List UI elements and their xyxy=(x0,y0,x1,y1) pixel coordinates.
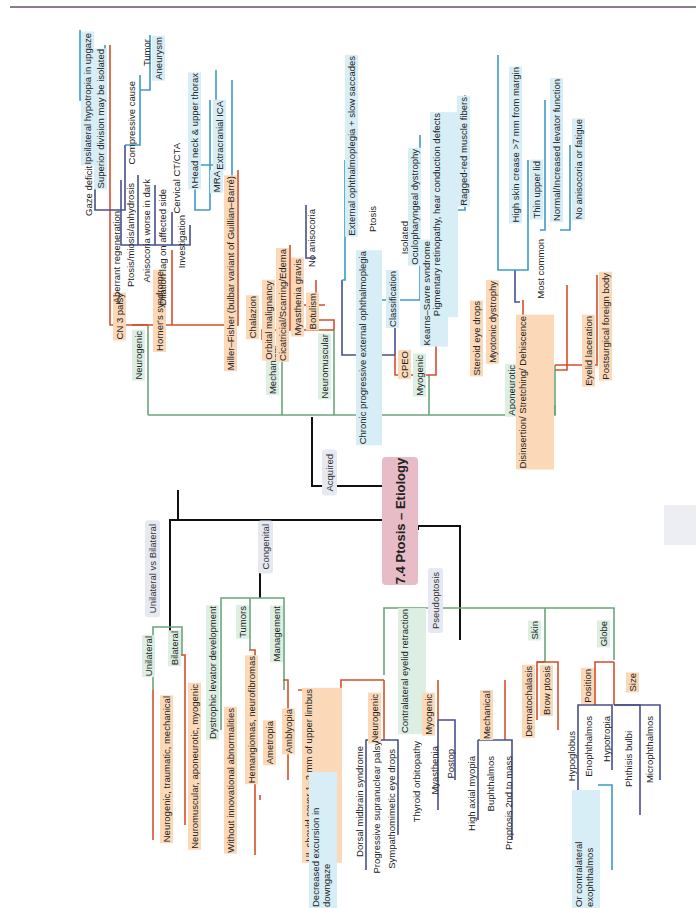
leaf-no-anisocoria: No anisocoria xyxy=(305,208,318,268)
leaf-high-axial-myopia: High axial myopia xyxy=(465,755,478,832)
node-unilateral: Unilateral xyxy=(142,635,155,677)
node-most-common: Most common xyxy=(534,238,547,300)
branch-unilateral-vs-bilateral: Unilateral vs Bilateral xyxy=(145,520,160,617)
branch-pseudoptosis: Pseudoptosis xyxy=(428,568,443,633)
node-bilateral: Bilateral xyxy=(168,630,181,666)
leaf-cpeo-full: Chronic progressive external ophthalmopl… xyxy=(356,250,382,445)
leaf-unilateral-causes: Neurogenic, traumatic, mechanical xyxy=(160,695,173,843)
leaf-cervical-ct: Cervical CT/CTA xyxy=(170,142,183,215)
leaf-cicatricial: Cicatricial/Scarring/Edema xyxy=(276,248,289,362)
node-aberrant-regeneration: Aberrant regeneration xyxy=(110,210,123,304)
leaf-superior-division: Superior division may be isolated xyxy=(94,48,107,189)
node-globe: Globe xyxy=(597,620,610,647)
leaf-or-contralateral-exophthalmos: Or contralateral exophthalmos xyxy=(572,790,600,908)
leaf-miller-fisher: Miller–Fisher (bulbar variant of Guillia… xyxy=(224,175,237,371)
leaf-ametropia: Ametropia xyxy=(263,720,276,765)
leaf-proptosis-mass: Proptosis 2nd to mass xyxy=(502,755,515,851)
leaf-hypoglobus: Hypoglobus xyxy=(565,730,578,782)
leaf-brow-ptosis: Brow ptosis xyxy=(540,665,553,716)
leaf-sympathomimetic: Sympathomimetic eye drops xyxy=(385,748,398,870)
leaf-hemangiomas: Hemangiomas, neurofibromas xyxy=(245,655,258,784)
leaf-thyroid-orbitopathy: Thyroid orbitopathy xyxy=(410,740,423,823)
node-pseudo-myogenic: Myogenic xyxy=(422,693,435,736)
leaf-buphthalmos: Buphthalmos xyxy=(484,755,497,812)
leaf-high-skin-crease: High skin crease >7 mm from margin xyxy=(509,66,522,223)
node-amblyopia: Amblyopia xyxy=(282,708,295,754)
leaf-without-innovational: Without innovational abnormalities xyxy=(224,707,237,854)
leaf-botulism: Botulism xyxy=(306,292,319,330)
node-ptosis: Ptosis xyxy=(366,205,379,233)
node-neuromuscular: Neuromuscular xyxy=(318,333,331,399)
node-dystrophic-levator: Dystrophic levator development xyxy=(206,605,219,740)
leaf-thin-upper-lid: Thin upper lid xyxy=(530,160,543,220)
leaf-orbital-malignancy: Orbital malignancy xyxy=(262,280,275,361)
leaf-progressive-supranuclear: Progressive supranuclear palsy xyxy=(370,740,383,875)
node-neurogenic: Neurogenic xyxy=(132,330,145,381)
leaf-head-neck-thorax: Head neck & upper thorax xyxy=(188,72,201,184)
node-pseudo-neurogenic: Neurogenic xyxy=(368,693,381,744)
leaf-no-anisocoria-fatigue: No anisocoria or fatigue xyxy=(572,118,585,220)
node-mra: MRA xyxy=(210,170,223,193)
node-classification: Classification xyxy=(386,270,399,328)
leaf-external-ophthalmoplegia: External ophthalmoplegia + slow saccades xyxy=(345,55,358,237)
node-compressive-cause: Compressive cause xyxy=(125,80,138,165)
node-pseudo-mechanical: Mechanical xyxy=(480,690,493,740)
leaf-dilation-lag: Dilation lag on affected side xyxy=(156,188,169,307)
leaf-phthisis-bulbi: Phthisis bulbi xyxy=(622,730,635,788)
leaf-myotonic-dystrophy: Myotonic dystrophy xyxy=(486,280,499,364)
leaf-ragged-red: Ragged-red muscle fibers xyxy=(457,96,470,207)
leaf-dorsal-midbrain: Dorsal midbrain syndrome xyxy=(353,745,366,858)
leaf-ipsilateral-hypotropia: Ipsilateral hypotropia in upgaze xyxy=(81,32,94,166)
leaf-postsurgical-foreign-body: Postsurgical foreign body xyxy=(599,272,612,381)
leaf-hypotropia: Hypotropia xyxy=(600,715,613,763)
leaf-steroid-eye-drops: Steroid eye drops xyxy=(470,300,483,376)
leaf-eyelid-laceration: Eyelid laceration xyxy=(582,315,595,387)
diagram-title: 7.4 Ptosis – Etiology xyxy=(382,457,418,585)
leaf-pigmentary-retinopathy: Pigmentary retinopathy, hear conduction … xyxy=(430,112,458,317)
leaf-decreased-excursion: Decreased excursion in downgaze xyxy=(309,772,337,908)
branch-acquired: Acquired xyxy=(322,450,337,496)
branch-congenital: Congenital xyxy=(258,520,273,573)
node-cpeo: CPEO xyxy=(398,350,411,379)
leaf-dermatochalasis: Dermatochalasis xyxy=(522,665,535,738)
leaf-postop: Postop xyxy=(444,748,457,780)
leaf-chalazion: Chalazion xyxy=(246,295,259,339)
node-tumors: Tumors xyxy=(236,605,249,639)
node-disinsertion: Disinsertion/ Stretching/ Dehiscence xyxy=(516,315,554,470)
leaf-aneurysm: Aneurysm xyxy=(152,36,165,81)
node-investigation: Investigation xyxy=(175,214,188,269)
node-management: Management xyxy=(270,605,283,662)
node-myasthenia-gravis: Myasthenia gravis xyxy=(291,258,304,337)
node-myogenic: Myogenic xyxy=(413,354,426,397)
node-size: Size xyxy=(626,672,639,692)
node-position: Position xyxy=(581,668,594,704)
leaf-ptosis-miosis: Ptosis/miosis/anhydrosis xyxy=(124,182,137,288)
leaf-extracranial-ica: Extracranial ICA xyxy=(213,100,226,171)
leaf-anisocoria-dark: Anisocoria worse in dark xyxy=(140,178,153,284)
leaf-myasthenia: Myasthenia xyxy=(428,745,441,796)
leaf-microphthalmos: Microphthalmos xyxy=(643,715,656,784)
leaf-normal-levator: Normal/Increased levator function xyxy=(550,78,563,222)
node-skin: Skin xyxy=(528,620,541,640)
leaf-bilateral-causes: Neuromuscular, aponeurotic, myogenic xyxy=(188,683,201,850)
leaf-enophthalmos: Enophthalmos xyxy=(582,715,595,778)
